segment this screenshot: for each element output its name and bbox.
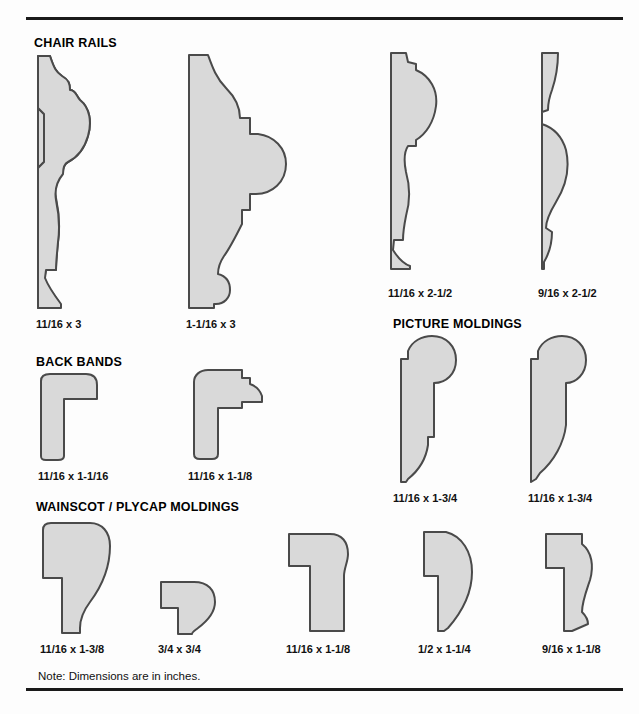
section-title-wainscot-plycap-moldings: WAINSCOT / PLYCAP MOLDINGS <box>36 500 239 514</box>
profile-picture-molding-2 <box>528 333 590 485</box>
dimension-back-band-1: 11/16 x 1-1/16 <box>38 470 108 482</box>
dimension-picture-molding-2: 11/16 x 1-3/4 <box>528 492 592 504</box>
profile-wainscot-4 <box>418 528 476 634</box>
dimension-wainscot-1: 11/16 x 1-3/8 <box>40 643 104 655</box>
profile-picture-molding-1 <box>398 333 460 485</box>
dimension-wainscot-3: 11/16 x 1-1/8 <box>286 643 350 655</box>
profile-wainscot-5 <box>542 530 602 634</box>
profile-chair-rail-4 <box>538 50 608 272</box>
note-dimensions: Note: Dimensions are in inches. <box>38 670 200 682</box>
profile-chair-rail-3 <box>388 50 458 272</box>
profile-back-band-1 <box>38 371 100 462</box>
section-title-chair-rails: CHAIR RAILS <box>34 36 117 50</box>
profile-wainscot-1 <box>40 520 112 636</box>
dimension-chair-rail-4: 9/16 x 2-1/2 <box>538 287 597 299</box>
section-title-picture-moldings: PICTURE MOLDINGS <box>393 317 522 331</box>
dimension-wainscot-2: 3/4 x 3/4 <box>158 643 201 655</box>
top-divider-rule <box>26 17 623 20</box>
dimension-chair-rail-1: 11/16 x 3 <box>36 318 81 330</box>
dimension-wainscot-5: 9/16 x 1-1/8 <box>542 643 601 655</box>
dimension-chair-rail-2: 1-1/16 x 3 <box>186 318 236 330</box>
dimension-back-band-2: 11/16 x 1-1/8 <box>188 470 252 482</box>
profile-chair-rail-1 <box>36 52 106 310</box>
profile-back-band-2 <box>188 366 266 462</box>
profile-wainscot-2 <box>158 578 218 636</box>
molding-profiles-chart: CHAIR RAILS 11/16 x 3 1-1/16 x 3 11/16 x… <box>0 0 639 714</box>
dimension-picture-molding-1: 11/16 x 1-3/4 <box>393 492 457 504</box>
dimension-chair-rail-3: 11/16 x 2-1/2 <box>388 287 452 299</box>
section-title-back-bands: BACK BANDS <box>36 355 122 369</box>
profile-wainscot-3 <box>286 530 356 634</box>
profile-chair-rail-2 <box>186 52 296 310</box>
dimension-wainscot-4: 1/2 x 1-1/4 <box>418 643 471 655</box>
bottom-divider-rule <box>26 688 623 691</box>
